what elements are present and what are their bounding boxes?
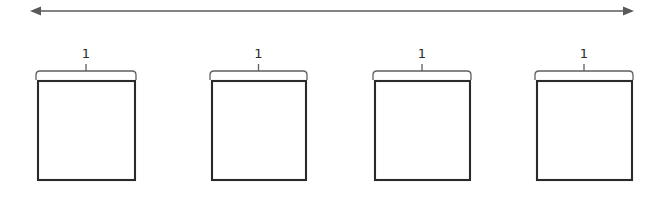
dimension-brace-3 (373, 71, 471, 80)
geometry-diagram-canvas: 1 1 1 1 (0, 0, 662, 200)
diagram-svg: 1 1 1 1 (0, 0, 662, 200)
unit-square-3 (375, 81, 470, 180)
unit-group-2: 1 (210, 46, 307, 180)
total-length-arrow (30, 6, 634, 15)
dimension-brace-1 (36, 71, 136, 80)
unit-square-2 (212, 81, 306, 180)
dimension-brace-2 (210, 71, 307, 80)
dimension-label-2: 1 (254, 46, 262, 61)
arrow-head-left-icon (30, 6, 41, 15)
unit-group-3: 1 (373, 46, 471, 180)
unit-square-4 (537, 81, 632, 180)
unit-group-1: 1 (36, 46, 136, 180)
dimension-label-1: 1 (82, 46, 90, 61)
dimension-label-4: 1 (580, 46, 588, 61)
arrow-head-right-icon (623, 6, 634, 15)
unit-group-4: 1 (535, 46, 633, 180)
unit-square-1 (38, 81, 135, 180)
dimension-label-3: 1 (418, 46, 426, 61)
dimension-brace-4 (535, 71, 633, 80)
